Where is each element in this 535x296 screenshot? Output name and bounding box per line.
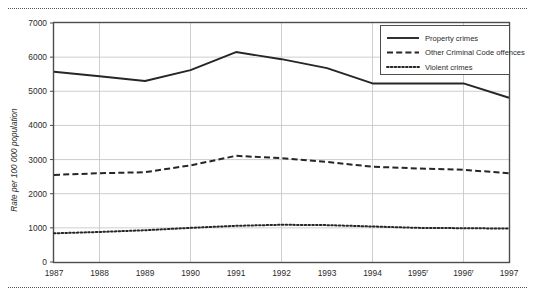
x-tick-label-text: 1995r [408, 268, 429, 278]
x-tick-label: 1990 [181, 268, 200, 278]
plot-area-wrapper: 01000200030004000500060007000 1987198819… [0, 0, 535, 296]
x-tick-label: 1997 [500, 268, 519, 278]
x-tick-label: 1987 [45, 268, 64, 278]
x-tick-label-text: 1993 [318, 268, 337, 278]
line-chart: 01000200030004000500060007000 1987198819… [0, 0, 535, 296]
x-axis-tick-labels: 198719881989199019911992199319941995r199… [45, 268, 519, 278]
chart-legend: Property crimesOther Criminal Code offen… [381, 26, 526, 75]
y-tick-label: 0 [42, 257, 47, 267]
x-tick-label: 1988 [90, 268, 109, 278]
y-tick-label: 5000 [28, 86, 47, 96]
x-tick-label-text: 1990 [181, 268, 200, 278]
x-tick-label-text: 1988 [90, 268, 109, 278]
x-tick-label: 1996r [453, 268, 474, 278]
y-tick-label: 4000 [28, 120, 47, 130]
x-tick-label: 1993 [318, 268, 337, 278]
x-tick-label-text: 1991 [227, 268, 246, 278]
legend-label: Property crimes [425, 34, 478, 43]
legend-label: Violent crimes [425, 63, 473, 72]
y-tick-label: 1000 [28, 223, 47, 233]
x-tick-label-text: 1996r [453, 268, 474, 278]
y-axis-tick-labels: 01000200030004000500060007000 [28, 18, 47, 267]
x-tick-label: 1994 [363, 268, 382, 278]
y-tick-label: 2000 [28, 189, 47, 199]
x-tick-label-text: 1987 [45, 268, 64, 278]
y-tick-label: 7000 [28, 18, 47, 28]
x-tick-label: 1992 [272, 268, 291, 278]
x-tick-label: 1991 [227, 268, 246, 278]
x-tick-label-text: 1994 [363, 268, 382, 278]
chart-figure: 01000200030004000500060007000 1987198819… [0, 0, 535, 296]
x-tick-label-text: 1992 [272, 268, 291, 278]
x-tick-label-text: 1989 [136, 268, 155, 278]
y-axis-title: Rate per 100 000 population [10, 108, 19, 212]
x-tick-label-text: 1997 [500, 268, 519, 278]
x-tick-label: 1989 [136, 268, 155, 278]
y-tick-label: 6000 [28, 52, 47, 62]
legend-label: Other Criminal Code offences [425, 48, 525, 57]
x-tick-label: 1995r [408, 268, 429, 278]
y-tick-label: 3000 [28, 155, 47, 165]
